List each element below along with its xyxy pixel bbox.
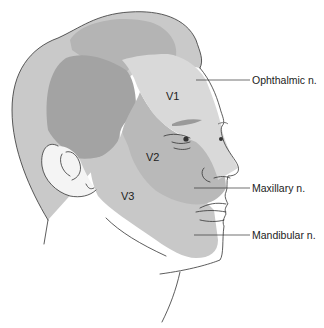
callout-maxillary: Maxillary n.: [252, 182, 305, 194]
callout-mandibular: Mandibular n.: [252, 229, 316, 241]
neck-front-line: [162, 272, 180, 322]
region-label-v2: V2: [146, 151, 159, 163]
trigeminal-nerve-diagram: V1 V2 V3 Ophthalmic n. Maxillary n. Mand…: [0, 0, 324, 328]
neck-back-line: [44, 220, 48, 244]
region-label-v3: V3: [121, 190, 134, 202]
callout-ophthalmic: Ophthalmic n.: [252, 74, 317, 86]
region-label-v1: V1: [166, 90, 179, 102]
far-eye-iris: [219, 137, 223, 141]
eye-iris: [183, 136, 188, 141]
